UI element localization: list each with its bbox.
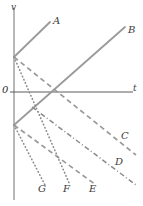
line-a: [14, 22, 50, 57]
line-label-g: G: [38, 184, 46, 194]
line-d: [32, 107, 136, 185]
t-axis-label: t: [133, 84, 137, 93]
line-label-f: F: [63, 184, 70, 194]
line-e: [14, 125, 96, 185]
v-axis-label: v: [11, 3, 16, 12]
line-label-d: D: [115, 157, 123, 167]
velocity-time-diagram: v t 0 A B C D E F G: [0, 0, 143, 206]
line-label-c: C: [121, 131, 129, 141]
diagram-canvas: [0, 0, 143, 206]
line-f: [14, 57, 70, 185]
line-g: [14, 125, 45, 185]
origin-label: 0: [2, 85, 8, 95]
line-label-e: E: [89, 184, 96, 194]
line-label-b: B: [128, 25, 135, 35]
line-label-a: A: [53, 16, 60, 26]
